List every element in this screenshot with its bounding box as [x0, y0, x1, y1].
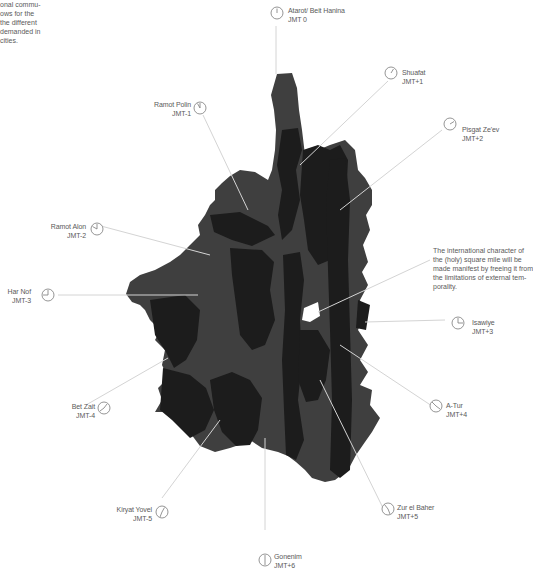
district-name: Atarot/ Beit Hanina [288, 6, 345, 15]
district-name: Ramot Alon [51, 222, 86, 231]
district-name: Ramot Polin [154, 100, 191, 109]
clock-icon [90, 222, 104, 236]
district-name: Bet Zait [72, 402, 95, 411]
clock-icon [155, 505, 169, 519]
clock-icon [270, 6, 284, 20]
clock-icon [429, 399, 443, 413]
district-offset: JMT-1 [154, 109, 191, 118]
clock-icon [384, 66, 398, 80]
district-name: A-Tur [446, 401, 467, 410]
district-offset: JMT+6 [274, 561, 302, 570]
clock-icon [193, 101, 207, 115]
clock-icon [381, 502, 395, 516]
district-offset: JMT+4 [446, 410, 467, 419]
clock-icon [258, 553, 272, 567]
district-offset: JMT+3 [472, 327, 495, 336]
district-offset: JMT-4 [72, 411, 95, 420]
district-offset: JMT-5 [117, 514, 152, 523]
clock-icon [41, 288, 55, 302]
district-name: Kiryat Yovel [117, 505, 152, 514]
district-name: Gonenim [274, 552, 302, 561]
district-offset: JMT+1 [402, 77, 425, 86]
district-offset: JMT-2 [51, 231, 86, 240]
international-note: The international character of the (holy… [433, 246, 533, 291]
district-name: Shuafat [402, 68, 425, 77]
intro-text: onal commu- ows for the the different de… [0, 0, 110, 45]
district-name: Pisgat Ze'ev [462, 125, 499, 134]
district-offset: JMT+2 [462, 134, 499, 143]
clock-icon [443, 117, 457, 131]
clock-icon [451, 316, 465, 330]
district-name: Isawiye [472, 318, 495, 327]
district-offset: JMT-3 [8, 296, 31, 305]
district-offset: JMT+5 [397, 512, 434, 521]
district-offset: JMT 0 [288, 15, 345, 24]
district-name: Har Nof [8, 287, 31, 296]
district-name: Zur el Baher [397, 503, 434, 512]
clock-icon [97, 401, 111, 415]
